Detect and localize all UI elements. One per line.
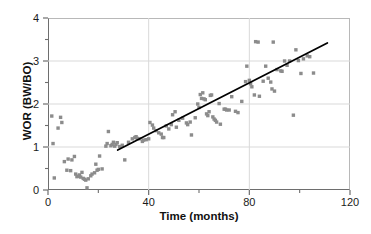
y-tick-label: 4 — [17, 13, 39, 24]
x-tick-label: 0 — [33, 197, 63, 208]
x-tick-label: 80 — [234, 197, 264, 208]
data-markers — [50, 40, 315, 190]
y-tick-label: 0 — [17, 185, 39, 196]
scatter-chart: 01234 04080120 Time (months) WOR (BW/BO) — [0, 0, 371, 234]
x-tick-label: 120 — [335, 197, 365, 208]
x-tick-label: 40 — [134, 197, 164, 208]
y-axis-title: WOR (BW/BO) — [21, 31, 33, 171]
axis-ticks — [43, 18, 350, 195]
x-axis-title: Time (months) — [48, 210, 350, 222]
